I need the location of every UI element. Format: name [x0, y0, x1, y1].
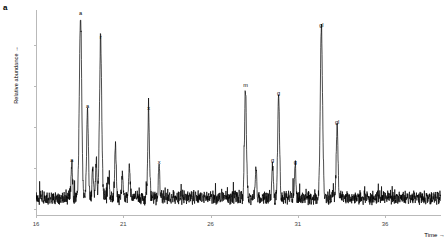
- peak-label: gl: [319, 23, 323, 29]
- y-axis-label: Relative abundance →: [13, 15, 19, 135]
- peak-label: a: [70, 158, 73, 164]
- peak-label: r: [100, 35, 102, 41]
- peak-label: m: [243, 83, 248, 89]
- peak-label: x: [147, 106, 150, 112]
- x-axis-tick-label: 21: [120, 221, 127, 227]
- peak-label: gl: [335, 120, 339, 126]
- x-axis-tick: [36, 215, 37, 218]
- plot-area: 1621263136 aaarxxmgggglgl: [36, 10, 441, 215]
- x-axis-tick-label: 16: [33, 221, 40, 227]
- x-axis-label: Time →: [424, 232, 445, 238]
- peak-label: g: [294, 160, 297, 166]
- trace-svg: [36, 10, 441, 215]
- x-axis-tick: [385, 215, 386, 218]
- x-axis-tick-label: 31: [295, 221, 302, 227]
- peak-label: a: [79, 11, 82, 17]
- peak-label: g: [271, 158, 274, 164]
- chromatogram-figure: a Relative abundance → 1621263136 aaarxx…: [0, 0, 447, 249]
- x-axis-tick: [298, 215, 299, 218]
- panel-label: a: [3, 4, 7, 12]
- x-axis-tick-label: 26: [207, 221, 214, 227]
- chromatogram-trace: [36, 10, 441, 215]
- x-axis-tick-label: 36: [382, 221, 389, 227]
- x-axis-tick: [123, 215, 124, 218]
- peak-label: a: [86, 104, 89, 110]
- x-axis-line: [36, 215, 441, 216]
- x-axis-tick: [211, 215, 212, 218]
- peak-label: x: [158, 160, 161, 166]
- peak-label: g: [277, 91, 280, 97]
